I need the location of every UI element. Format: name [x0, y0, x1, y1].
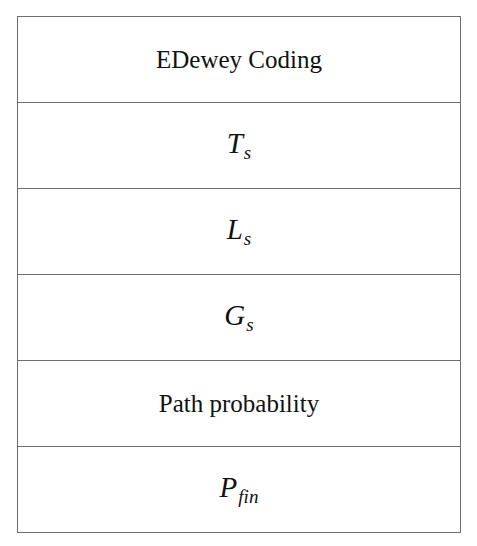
block-g-s: Gs [18, 274, 460, 360]
block-path-probability: Path probability [18, 360, 460, 446]
block-stack: EDewey Coding Ts Ls Gs Path probability … [17, 16, 461, 533]
block-label: EDewey Coding [156, 46, 322, 74]
math-symbol: Gs [224, 299, 253, 337]
math-symbol: Ls [227, 213, 252, 251]
math-symbol: Ts [227, 127, 252, 165]
math-symbol: Pfin [220, 471, 259, 509]
block-l-s: Ls [18, 188, 460, 274]
block-p-fin: Pfin [18, 446, 460, 532]
block-edewey-coding: EDewey Coding [18, 17, 460, 102]
block-label: Path probability [159, 390, 319, 418]
block-t-s: Ts [18, 102, 460, 188]
